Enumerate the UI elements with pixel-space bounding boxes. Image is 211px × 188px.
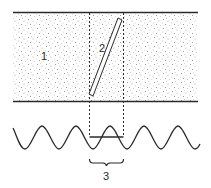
label-medium: 1: [41, 50, 47, 62]
label-rod: 2: [99, 42, 105, 54]
diagram-canvas: 1 2 3: [0, 0, 211, 188]
label-wavelength: 3: [103, 170, 109, 182]
wavelength-brace: [90, 159, 124, 166]
